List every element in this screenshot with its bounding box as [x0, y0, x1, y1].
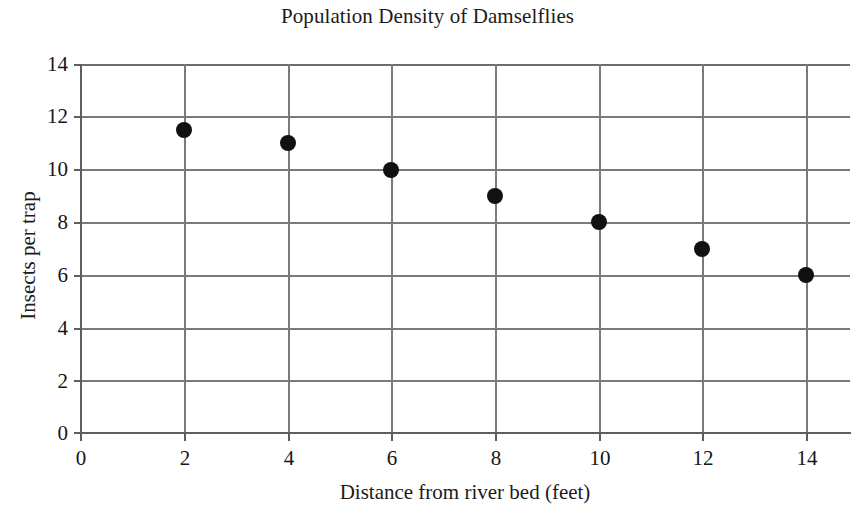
x-tick-label-8: 8 — [466, 446, 526, 470]
data-point — [280, 135, 296, 151]
x-tick-mark-4 — [288, 433, 290, 441]
data-point — [487, 188, 503, 204]
plot-top-border — [80, 64, 850, 66]
x-tick-mark-6 — [391, 433, 393, 441]
y-tick-label-12: 12 — [8, 106, 68, 127]
data-point — [798, 267, 814, 283]
gridline-x-8 — [495, 64, 497, 433]
x-tick-mark-10 — [599, 433, 601, 441]
scatter-chart: Population Density of Damselflies 14 12 … — [0, 0, 855, 516]
gridline-x-2 — [184, 64, 186, 433]
x-tick-label-6: 6 — [362, 446, 422, 470]
gridline-y-4 — [80, 328, 850, 330]
data-point — [694, 241, 710, 257]
x-tick-mark-2 — [184, 433, 186, 441]
x-tick-label-12: 12 — [673, 446, 733, 470]
gridline-x-10 — [599, 64, 601, 433]
gridline-y-6 — [80, 275, 850, 277]
gridline-y-2 — [80, 380, 850, 382]
x-tick-mark-12 — [702, 433, 704, 441]
x-tick-label-4: 4 — [259, 446, 319, 470]
data-point — [591, 214, 607, 230]
chart-title: Population Density of Damselflies — [0, 4, 855, 29]
y-axis-line — [80, 64, 82, 435]
data-point — [176, 122, 192, 138]
x-tick-label-0: 0 — [51, 446, 111, 470]
plot-area — [80, 64, 850, 433]
x-tick-mark-8 — [495, 433, 497, 441]
gridline-x-6 — [391, 64, 393, 433]
data-point — [383, 162, 399, 178]
gridline-x-4 — [288, 64, 290, 433]
x-tick-mark-0 — [80, 433, 82, 441]
x-tick-label-2: 2 — [155, 446, 215, 470]
x-axis-line — [80, 432, 851, 434]
x-tick-label-14: 14 — [777, 446, 837, 470]
gridline-x-14 — [806, 64, 808, 433]
y-tick-label-0: 0 — [8, 423, 68, 444]
gridline-y-12 — [80, 116, 850, 118]
gridline-y-10 — [80, 169, 850, 171]
y-tick-label-14: 14 — [8, 54, 68, 75]
x-tick-mark-14 — [806, 433, 808, 441]
x-tick-label-10: 10 — [570, 446, 630, 470]
x-axis-title: Distance from river bed (feet) — [80, 480, 850, 505]
gridline-y-8 — [80, 222, 850, 224]
y-axis-title: Insects per trap — [16, 136, 41, 376]
